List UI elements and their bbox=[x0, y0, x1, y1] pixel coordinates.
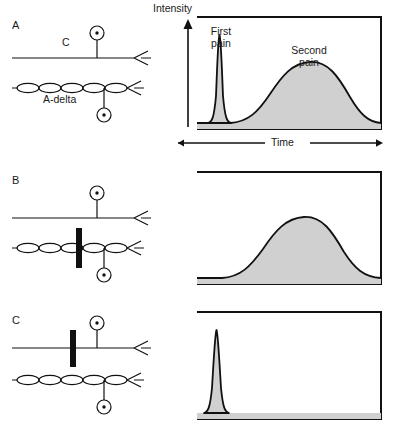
nerve-diagram-c bbox=[0, 300, 180, 428]
panel-b: B bbox=[0, 160, 393, 300]
first-pain-annotation: First pain bbox=[198, 26, 244, 49]
a-delta-fiber-b bbox=[12, 228, 144, 282]
panel-a-plot: Intensity First pain Second pain Time bbox=[170, 0, 393, 160]
second-pain-fill-b bbox=[197, 217, 381, 284]
c-fiber-c bbox=[12, 316, 151, 367]
c-fiber-b bbox=[12, 186, 151, 225]
intensity-axis-arrow bbox=[184, 19, 193, 127]
c-fiber-label-a: C bbox=[62, 36, 70, 48]
a-delta-fiber-a bbox=[12, 81, 144, 122]
second-pain-annotation: Second pain bbox=[282, 45, 336, 68]
panel-a-diagram: C A-delta bbox=[0, 0, 180, 160]
first-pain-spike-c bbox=[204, 330, 229, 413]
chart-c bbox=[170, 300, 393, 428]
block-bar-c-fiber-c bbox=[70, 330, 76, 367]
panel-c: C bbox=[0, 300, 393, 428]
chart-b bbox=[170, 160, 393, 300]
block-bar-a-delta-b bbox=[76, 228, 82, 268]
panel-b-diagram bbox=[0, 160, 180, 300]
intensity-axis-label: Intensity bbox=[153, 2, 192, 14]
panel-c-plot bbox=[170, 300, 393, 428]
a-delta-fiber-c bbox=[12, 373, 144, 414]
panel-a: A bbox=[0, 0, 393, 160]
nerve-diagram-b bbox=[0, 160, 180, 300]
pain-pathway-figure: A bbox=[0, 0, 393, 428]
chart-c-frame bbox=[197, 312, 381, 419]
panel-b-plot bbox=[170, 160, 393, 300]
time-axis-label: Time bbox=[271, 136, 294, 148]
c-fiber-a bbox=[12, 26, 151, 65]
panel-c-diagram bbox=[0, 300, 180, 428]
nerve-diagram-a bbox=[0, 0, 180, 160]
a-delta-fiber-label-a: A-delta bbox=[43, 93, 76, 105]
